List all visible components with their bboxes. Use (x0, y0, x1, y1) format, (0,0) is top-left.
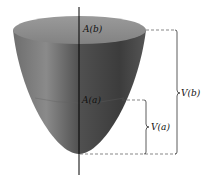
brace-v-a (144, 100, 149, 154)
label-volume-b: V(b) (181, 88, 201, 98)
paraboloid-diagram: A(b) A(a) V(a) V(b) (0, 0, 211, 184)
diagram-canvas: A(b) A(a) V(a) V(b) (0, 0, 211, 184)
brace-v-b (175, 30, 180, 154)
label-area-b: A(b) (82, 24, 103, 34)
label-area-a: A(a) (81, 95, 101, 105)
label-volume-a: V(a) (151, 122, 170, 132)
